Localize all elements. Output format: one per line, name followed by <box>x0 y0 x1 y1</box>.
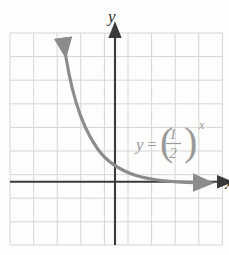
x-axis-label: x <box>224 174 229 193</box>
graph-figure: y x y = ( 1 2 ) x <box>0 0 229 255</box>
equation-equals: = <box>146 135 157 154</box>
equation-numerator: 1 <box>169 126 177 142</box>
coordinate-plane-svg: y x y = ( 1 2 ) x <box>0 0 229 255</box>
equation-lhs: y <box>134 135 144 154</box>
equation-right-paren: ) <box>184 119 197 164</box>
equation-exponent: x <box>198 118 205 132</box>
equation-denominator: 2 <box>169 145 177 161</box>
y-axis-label: y <box>106 7 116 26</box>
